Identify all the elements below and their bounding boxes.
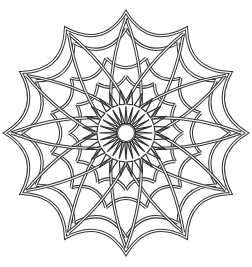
mandala-illustration bbox=[0, 0, 252, 267]
